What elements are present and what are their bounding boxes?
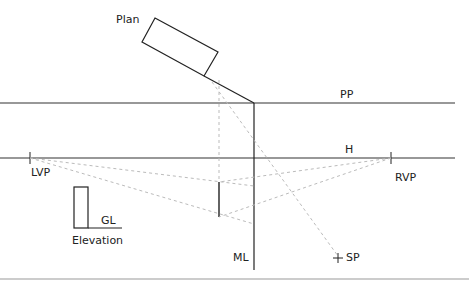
plan-edge-to-pp [204,76,254,103]
station-point-marker [333,253,343,263]
ml-label: ML [233,252,249,263]
pp-label: PP [340,89,353,100]
construction-lines [30,80,391,256]
rvp-label: RVP [395,172,416,183]
elevation-rectangle [74,187,88,228]
h-label: H [345,144,353,155]
plan-rectangle [142,18,218,76]
plan-label: Plan [116,14,139,25]
gl-label: GL [101,215,116,226]
elevation-label: Elevation [72,235,123,246]
sp-label: SP [346,252,360,263]
perspective-diagram [0,0,469,284]
lvp-label: LVP [31,167,50,178]
